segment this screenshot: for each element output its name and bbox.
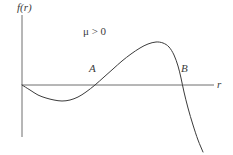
plot-canvas (0, 0, 233, 155)
mu-condition-annotation: μ > 0 (83, 26, 106, 37)
point-label-a: A (89, 63, 96, 74)
y-axis-label: f(r) (17, 2, 32, 13)
figure-container: f(r) r μ > 0 A B (0, 0, 233, 155)
point-label-b: B (181, 63, 188, 74)
fr-curve (22, 42, 203, 152)
x-axis-label: r (217, 79, 221, 90)
